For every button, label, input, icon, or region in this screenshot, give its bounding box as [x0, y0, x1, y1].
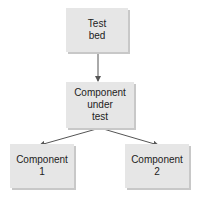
node-label: Component under test — [74, 87, 126, 123]
node-component-2: Component 2 — [125, 144, 189, 188]
node-label: Component 1 — [16, 154, 68, 178]
edge-cut-to-component-2 — [100, 128, 158, 145]
node-label: Test bed — [88, 18, 106, 42]
node-label: Component 2 — [131, 154, 183, 178]
node-component-1: Component 1 — [10, 144, 74, 188]
edge-cut-to-component-1 — [40, 128, 100, 145]
node-test-bed: Test bed — [66, 8, 128, 52]
node-component-under-test: Component under test — [66, 82, 134, 128]
